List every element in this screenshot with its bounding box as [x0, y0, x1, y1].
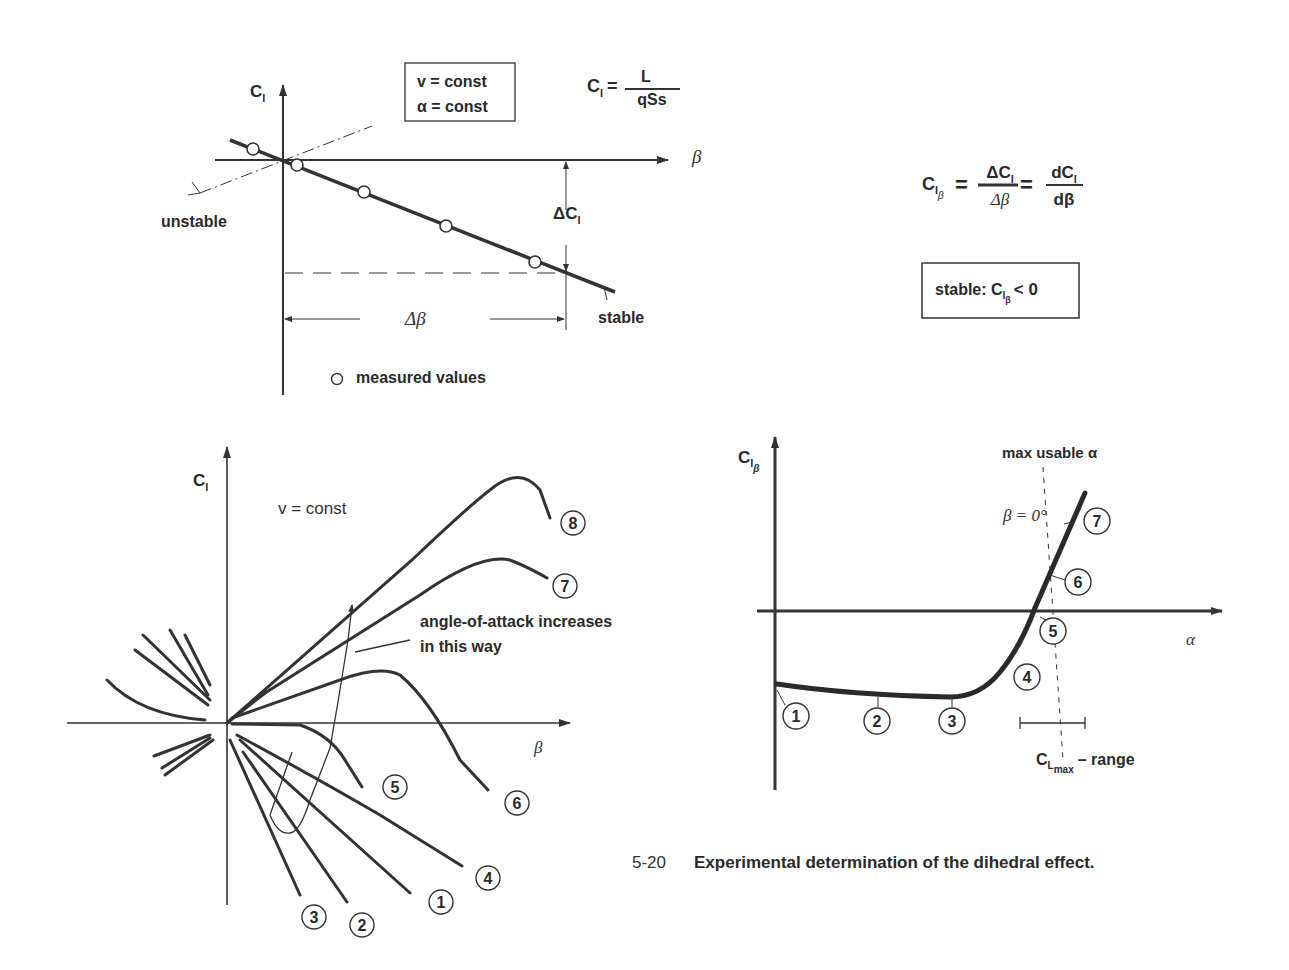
stable-criterion-box: stable: Clβ< 0 — [922, 263, 1079, 318]
svg-text:3: 3 — [948, 713, 957, 730]
svg-text:ΔCl: ΔCl — [986, 163, 1014, 185]
svg-text:=: = — [1020, 172, 1033, 197]
svg-text:=: = — [955, 172, 968, 197]
svg-text:qSs: qSs — [637, 91, 666, 108]
svg-text:4: 4 — [484, 870, 493, 887]
bottom-right-plot: Clβ α max usable α β = 0° 1 2 3 4 5 6 7 — [738, 437, 1222, 790]
svg-text:Cl=: Cl= — [587, 76, 618, 99]
delta-cl-label: ΔCl — [553, 204, 581, 226]
svg-text:1: 1 — [437, 894, 446, 911]
svg-text:dCl: dCl — [1051, 163, 1077, 185]
svg-text:3: 3 — [310, 909, 319, 926]
svg-text:Δβ: Δβ — [990, 190, 1010, 209]
legend-label: measured values — [356, 369, 486, 386]
curve-label-6: 6 — [505, 791, 529, 815]
figure-caption-text: Experimental determination of the dihedr… — [694, 853, 1095, 872]
point-label-1: 1 — [783, 703, 809, 729]
svg-text:6: 6 — [513, 795, 522, 812]
x-axis-label: α — [1186, 630, 1196, 649]
curve-4 — [237, 735, 462, 866]
clmax-range-bar — [1020, 717, 1085, 729]
clmax-range-label: CLmax– range — [1036, 751, 1135, 775]
cl-beta-curves — [107, 478, 550, 903]
delta-beta-label: Δβ — [404, 308, 426, 329]
unstable-leader — [188, 182, 200, 195]
curve-label-8: 8 — [561, 511, 585, 535]
point-labels: 1 2 3 4 5 6 7 — [783, 508, 1110, 734]
svg-text:4: 4 — [1023, 669, 1032, 686]
svg-text:2: 2 — [873, 713, 882, 730]
svg-text:7: 7 — [1093, 513, 1102, 530]
svg-text:7: 7 — [561, 578, 570, 595]
y-axis-label: Cl — [193, 471, 208, 493]
x-axis-label: β — [691, 146, 702, 167]
svg-text:stable: Clβ< 0: stable: Clβ< 0 — [935, 280, 1038, 305]
curve-neg-1 — [107, 680, 205, 720]
svg-text:5: 5 — [391, 779, 400, 796]
figure-number: 5-20 — [632, 853, 666, 872]
point-label-5: 5 — [1040, 618, 1066, 644]
svg-text:8: 8 — [569, 515, 578, 532]
formula-clbeta: Clβ = ΔCl Δβ = dCl dβ — [922, 163, 1083, 209]
svg-text:Clβ: Clβ — [922, 174, 944, 201]
aoa-leader — [355, 640, 410, 652]
svg-text:6: 6 — [1074, 574, 1083, 591]
aoa-increase-path — [270, 605, 410, 833]
bottom-left-plot: Cl β v = const — [67, 447, 612, 937]
beta-zero-label: β = 0° — [1002, 506, 1047, 525]
x-axis-label: β — [533, 738, 543, 757]
condition-label: v = const — [278, 499, 347, 518]
figure-caption: 5-20 Experimental determination of the d… — [632, 853, 1095, 872]
svg-text:L: L — [641, 68, 651, 85]
svg-text:dβ: dβ — [1054, 190, 1075, 209]
curve-label-4: 4 — [476, 866, 500, 890]
aoa-annotation-line2: in this way — [420, 638, 502, 655]
condition-alpha: α = const — [417, 98, 488, 115]
curve-2 — [243, 752, 347, 902]
curve-label-7: 7 — [553, 574, 577, 598]
svg-text:2: 2 — [358, 917, 367, 934]
y-axis-label: Clβ — [738, 448, 760, 474]
curve-label-1: 1 — [429, 890, 453, 914]
curve-label-5: 5 — [383, 775, 407, 799]
unstable-label: unstable — [161, 213, 227, 230]
legend-circle-icon — [332, 374, 343, 385]
y-axis-label: Cl — [250, 82, 265, 104]
condition-velocity: v = const — [417, 73, 487, 90]
dihedral-effect-figure: Cl β unstable stable ΔCl Δβ v = c — [0, 0, 1289, 970]
top-left-plot: Cl β unstable stable ΔCl Δβ v = c — [161, 63, 702, 395]
curve-5 — [232, 724, 362, 787]
point-label-3: 3 — [939, 708, 965, 734]
point-label-4: 4 — [1014, 664, 1040, 690]
max-usable-alpha-label: max usable α — [1002, 444, 1098, 461]
svg-text:5: 5 — [1049, 623, 1058, 640]
point-label-7: 7 — [1084, 508, 1110, 534]
curve-label-2: 2 — [350, 913, 374, 937]
aoa-annotation-line1: angle-of-attack increases — [420, 613, 612, 630]
point-label-6: 6 — [1065, 569, 1091, 595]
point-label-2: 2 — [864, 708, 890, 734]
formula-cl-definition: Cl= L qSs — [587, 68, 680, 108]
stable-label: stable — [598, 309, 644, 326]
curve-label-3: 3 — [302, 905, 326, 929]
svg-text:1: 1 — [792, 708, 801, 725]
